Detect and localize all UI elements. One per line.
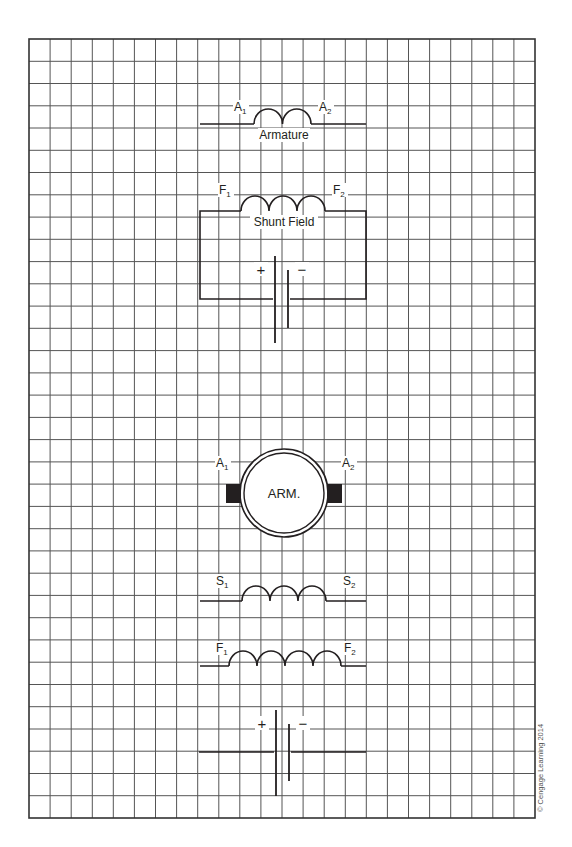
shunt-field-loops [241,196,325,211]
copyright-notice: © Cengage Learning 2014 [536,724,545,812]
series-field-coil: S1 S2 [200,574,366,601]
diagram-canvas: A1 A2 Armature F1 F2 Shunt Field + − ARM… [0,0,572,847]
battery-top-plus: + [257,261,266,278]
battery-top-minus: − [298,261,307,278]
armature-symbol-label: ARM. [268,486,301,501]
shunt-field-label: Shunt Field [254,215,315,229]
grid-paper [29,39,535,818]
shunt-field-circuit: F1 F2 Shunt Field + − [200,183,366,343]
brush-right [327,484,342,503]
brush-left [226,484,241,503]
battery-bottom-plus: + [258,715,267,732]
battery-bottom-minus: − [299,715,308,732]
armature-coil-label: Armature [259,128,309,142]
